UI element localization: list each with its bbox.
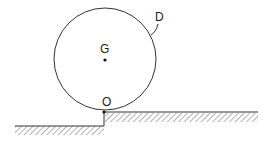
center-label: G [100,42,109,56]
contact-point [102,110,105,113]
diagram-canvas: G O D [0,0,271,147]
upper-ground-hatch [105,113,258,122]
disk-leader-line [151,24,158,35]
disk-label: D [155,10,164,24]
contact-label: O [102,95,111,109]
lower-ground-hatch [15,126,104,135]
center-point [103,58,106,61]
